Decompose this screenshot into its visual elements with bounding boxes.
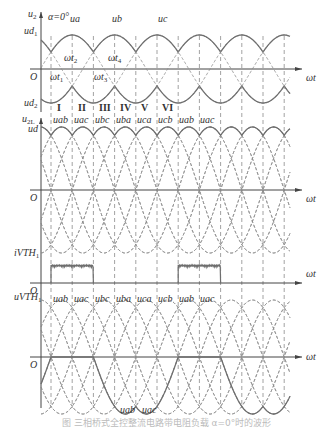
time-marker-3: ωt3 <box>94 72 107 84</box>
time-marker-4: ωt4 <box>108 53 121 65</box>
x-axis-label-1: ωt <box>306 73 316 83</box>
curve-label-ub: ub <box>112 14 122 24</box>
y-label-u2: u2 <box>28 9 37 21</box>
interval-II: II <box>78 103 86 113</box>
segment-label-uac-1: uac <box>74 115 88 125</box>
segment-label-ubc-2: ubc <box>95 115 109 125</box>
arrow-icon <box>295 355 302 359</box>
segment-label-uca-4: uca <box>137 115 151 125</box>
segment-label-uab-0: uab <box>53 115 68 125</box>
origin-label-4: O <box>30 360 37 370</box>
ud2-envelope <box>41 86 290 103</box>
y-label-ud2: ud2 <box>24 98 38 110</box>
arrow-icon <box>295 281 302 285</box>
vt-segment-label-uab-0: uab <box>53 294 68 304</box>
vt-segment-label-uac-1: uac <box>74 294 88 304</box>
waveform-figure <box>0 0 333 432</box>
origin-label-1: O <box>30 72 37 82</box>
arrow-icon <box>295 67 302 71</box>
ud-envelope <box>41 127 290 135</box>
y-label-ivth1: iVTH1 <box>14 248 39 260</box>
time-marker-2: ωt2 <box>64 53 77 65</box>
segment-label-uac-7: uac <box>200 115 214 125</box>
time-marker-1: ωt1 <box>50 72 63 84</box>
vt-segment-label-ucb-5: ucb <box>158 294 172 304</box>
figure-caption: 图 三相桥式全控整流电路带电阻负载 α=0°时的波形 <box>0 416 333 429</box>
alpha-label: α=0° <box>48 12 69 22</box>
vt-segment-label-uac-7: uac <box>200 294 214 304</box>
interval-V: V <box>141 103 148 113</box>
interval-VI: VI <box>162 103 173 113</box>
x-axis-label-4: ωt <box>306 352 316 362</box>
interval-IV: IV <box>120 103 131 113</box>
vt-segment-label-uca-4: uca <box>137 294 151 304</box>
segment-label-uab-6: uab <box>179 115 194 125</box>
segment-label-uba-3: uba <box>116 115 131 125</box>
y-label-ud1: ud1 <box>24 26 38 38</box>
vt-segment-label-uab-6: uab <box>179 294 194 304</box>
y-label-ud: ud <box>28 124 38 134</box>
arrow-icon <box>39 12 43 18</box>
ud1-envelope <box>41 35 290 52</box>
y-label-uvth1: uVTH1 <box>14 292 41 304</box>
arrow-icon <box>295 188 302 192</box>
arrow-icon <box>39 118 43 124</box>
bottom-label-uac: uac <box>142 405 156 415</box>
vt-segment-label-uba-3: uba <box>116 294 131 304</box>
x-axis-label-2: ωt <box>306 194 316 204</box>
segment-label-ucb-5: ucb <box>158 115 172 125</box>
x-axis-label-3: ωt <box>306 269 316 279</box>
interval-I: I <box>57 103 61 113</box>
bottom-label-uab: uab <box>120 405 135 415</box>
curve-label-uc: uc <box>158 14 167 24</box>
origin-label-2: O <box>30 193 37 203</box>
curve-label-ua: ua <box>70 14 80 24</box>
interval-III: III <box>99 103 111 113</box>
vt-segment-label-ubc-2: ubc <box>95 294 109 304</box>
